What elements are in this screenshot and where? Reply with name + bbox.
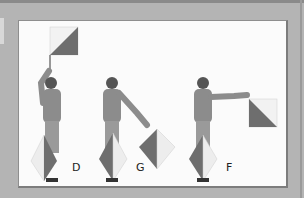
figure-d bbox=[31, 27, 78, 182]
illustration-panel: D G F bbox=[18, 20, 288, 188]
semaphore-illustration bbox=[19, 21, 287, 187]
frame-top-border bbox=[0, 0, 304, 3]
figure-f bbox=[189, 77, 277, 182]
signal-letter-f: F bbox=[226, 161, 232, 174]
signal-letter-d: D bbox=[72, 161, 80, 174]
frame-left-tab bbox=[0, 18, 4, 44]
signal-letter-g: G bbox=[136, 161, 145, 174]
frame-right-border bbox=[300, 0, 302, 198]
